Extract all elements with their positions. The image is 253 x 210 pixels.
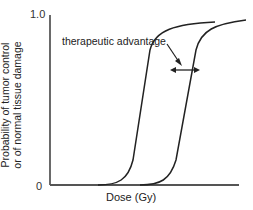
arrowhead-right-icon [194,67,200,73]
annotation-pointer-arrowhead [175,58,182,66]
x-axis-label: Dose (Gy) [106,191,156,203]
y-axis-label: Probability of tumor control or of norma… [0,40,25,170]
y-tick-bottom: 0 [36,180,42,192]
annotation-pointer [167,44,179,62]
y-axis-label-line1: Probability of tumor control [0,40,11,170]
arrowhead-left-icon [170,67,176,73]
y-tick-top: 1.0 [30,8,45,20]
plot-area [0,0,253,210]
y-axis-label-line2: or of normal tissue damage [11,40,23,170]
therapeutic-advantage-label: therapeutic advantage [62,35,166,47]
